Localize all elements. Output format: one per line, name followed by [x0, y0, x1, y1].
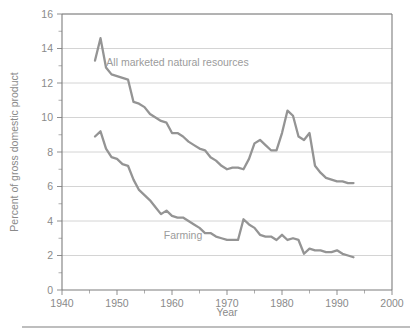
x-tick-label-1990: 1990	[325, 297, 349, 309]
y-tick-label-4: 4	[47, 215, 53, 227]
x-tick-label-2000: 2000	[380, 297, 404, 309]
data-lines	[95, 38, 354, 257]
series-label-farming: Farming	[164, 229, 203, 241]
x-major-ticks	[62, 290, 392, 295]
x-tick-label-1950: 1950	[105, 297, 129, 309]
gridlines	[62, 14, 392, 256]
y-tick-label-2: 2	[47, 249, 53, 261]
y-major-ticks	[57, 14, 62, 290]
chart-figure: 0246810121416 19401950196019701980199020…	[0, 0, 414, 336]
y-tick-label-6: 6	[47, 180, 53, 192]
y-tick-label-14: 14	[41, 42, 53, 54]
series-label-all-marketed-natural-resources: All marketed natural resources	[106, 56, 248, 68]
series-line-farming	[95, 131, 354, 257]
y-axis-tick-labels: 0246810121416	[41, 8, 53, 296]
y-tick-label-16: 16	[41, 8, 53, 20]
x-tick-label-1940: 1940	[50, 297, 74, 309]
y-axis-title: Percent of gross domestic product	[8, 72, 20, 231]
line-chart: 0246810121416 19401950196019701980199020…	[0, 0, 414, 336]
series-labels: All marketed natural resourcesFarming	[106, 56, 248, 241]
x-axis-title: Year	[216, 306, 238, 318]
y-tick-label-0: 0	[47, 284, 53, 296]
x-tick-label-1980: 1980	[270, 297, 294, 309]
x-tick-label-1960: 1960	[160, 297, 184, 309]
y-tick-label-8: 8	[47, 146, 53, 158]
y-tick-label-10: 10	[41, 111, 53, 123]
y-tick-label-12: 12	[41, 77, 53, 89]
